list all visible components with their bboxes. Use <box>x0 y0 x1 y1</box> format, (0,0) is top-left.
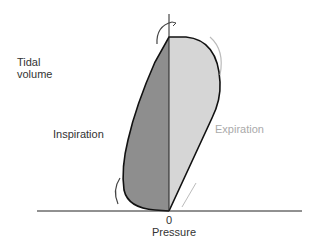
pv-loop-diagram <box>0 0 317 249</box>
y-axis-label-line2: volume <box>17 68 52 81</box>
x-axis-label: Pressure <box>152 226 196 239</box>
expiration-start-line-icon <box>182 183 196 207</box>
inspiration-arrow-icon <box>115 178 120 204</box>
expiration-label: Expiration <box>215 123 264 136</box>
inspiration-label: Inspiration <box>53 128 104 141</box>
inspiration-region <box>123 37 169 211</box>
